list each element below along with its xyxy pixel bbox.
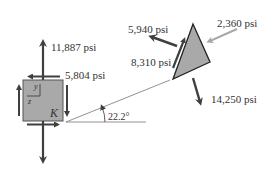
wedge-gray-stress-label: 2,360 psi <box>217 18 257 29</box>
wedge-bottom-stress-label: 14,250 psi <box>211 94 257 105</box>
z-axis-label: z <box>28 98 31 106</box>
angle-arc <box>102 107 105 122</box>
element-k-label: K <box>50 107 58 119</box>
wedge-bottom-arrow <box>193 78 200 102</box>
wedge-shear-stress-label: 8,310 psi <box>131 57 171 68</box>
wedge-gray-arrow <box>210 29 237 41</box>
angle-label: 22.2° <box>108 112 130 122</box>
wedge-upper-left-arrow <box>152 37 177 46</box>
y-axis-label: y <box>34 83 38 91</box>
wedge-upper-left-stress-label: 5,940 psi <box>128 24 168 35</box>
normal-stress-label: 11,887 psi <box>51 42 96 53</box>
shear-stress-label: 5,804 psi <box>65 70 105 81</box>
